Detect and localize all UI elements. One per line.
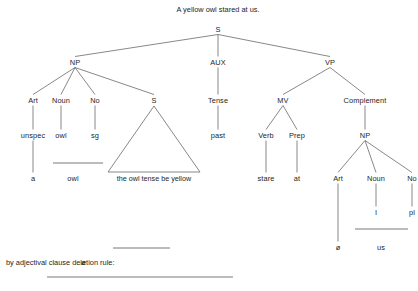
tree-node-at: at (294, 174, 300, 183)
tree-edge-vp-to-mv (283, 68, 330, 95)
tree-node-art2: Art (333, 174, 343, 183)
tree-node-no1: No (90, 96, 100, 105)
tree-node-np2: NP (360, 131, 370, 140)
tree-node-noun2: Noun (367, 174, 385, 183)
tree-node-zero_art: ø (336, 243, 341, 252)
tree-node-s2: S (151, 96, 156, 105)
triangle-layer (108, 106, 200, 172)
tree-node-noun1: Noun (52, 96, 70, 105)
tree-node-tense: Tense (208, 96, 228, 105)
tree-lines-svg (0, 0, 418, 291)
tree-edge-mv-to-verb (266, 106, 283, 130)
tree-edge-mv-to-prep (283, 106, 297, 130)
tree-edge-np2-to-art2 (338, 141, 365, 173)
tree-node-no2: No (407, 174, 417, 183)
tree-node-us: us (377, 243, 385, 252)
tree-node-aux: AUX (210, 58, 226, 67)
elided-constituent-triangle (108, 106, 200, 172)
tree-node-complement: Complement (344, 96, 387, 105)
tree-node-mv: MV (277, 96, 288, 105)
tree-edge-vp-to-complement (330, 68, 365, 95)
tree-edge-s-to-np1 (75, 35, 218, 57)
tree-node-a: a (31, 174, 35, 183)
deletion-rule-label: by adjectival clause deletion rule: (6, 258, 114, 267)
tree-edge-np1-to-no1 (75, 68, 95, 95)
tree-node-sg: sg (91, 131, 99, 140)
deletion-rule-value: ø (81, 258, 86, 267)
tree-node-owl_pre: owl (55, 131, 66, 140)
tree-node-vp: VP (325, 58, 335, 67)
tree-edge-s-to-vp (218, 35, 330, 57)
tree-edge-np1-to-s2 (75, 68, 154, 95)
tree-node-np1: NP (70, 58, 80, 67)
tree-node-prep: Prep (289, 131, 305, 140)
tree-node-unspec: unspec (21, 131, 45, 140)
triangle-terminal-string: the owl tense be yellow (117, 174, 191, 183)
sentence-title: A yellow owl stared at us. (177, 5, 260, 14)
tree-edge-np1-to-art1 (33, 68, 75, 95)
tree-node-pl: pl (409, 208, 415, 217)
tree-node-i: I (375, 208, 377, 217)
tree-edge-np2-to-noun2 (365, 141, 376, 173)
tree-node-stare: stare (258, 174, 275, 183)
tree-edge-np2-to-no2 (365, 141, 412, 173)
tree-node-past: past (211, 131, 225, 140)
tree-node-s: S (215, 25, 220, 34)
tree-node-art1: Art (28, 96, 38, 105)
syntax-tree-figure: A yellow owl stared at us. SNPAUXVPArtNo… (0, 0, 418, 291)
tree-node-verb: Verb (258, 131, 274, 140)
tree-node-owl_term: owl (67, 174, 78, 183)
